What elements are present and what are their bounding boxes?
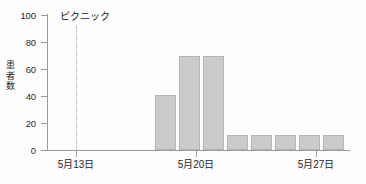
y-tick-label-0: 0 xyxy=(8,146,36,156)
plot-area xyxy=(47,15,350,150)
x-tick-may13 xyxy=(76,151,77,157)
y-tick-label-100: 100 xyxy=(8,11,36,21)
x-axis-line xyxy=(47,150,350,151)
y-tick-0 xyxy=(41,150,47,151)
y-tick-label-20: 20 xyxy=(8,119,36,129)
x-tick-label-may20: 5月20日 xyxy=(161,160,231,170)
y-axis-title-char-3: 数 xyxy=(5,81,16,92)
epidemic-curve-chart: 患 者 数 100 80 60 40 20 0 ピクニック 5月13日 5月20… xyxy=(0,0,366,184)
bar-1 xyxy=(179,56,200,151)
x-tick-label-may13: 5月13日 xyxy=(41,160,111,170)
y-tick-label-60: 60 xyxy=(8,65,36,75)
x-tick-may27 xyxy=(316,151,317,157)
x-tick-may20 xyxy=(196,151,197,157)
y-tick-label-80: 80 xyxy=(8,38,36,48)
bar-4 xyxy=(251,135,272,150)
bar-3 xyxy=(227,135,248,150)
bar-2 xyxy=(203,56,224,151)
x-tick-label-may27: 5月27日 xyxy=(281,160,351,170)
y-tick-label-40: 40 xyxy=(8,92,36,102)
bar-6 xyxy=(299,135,320,150)
bar-0 xyxy=(155,95,176,150)
bar-7 xyxy=(323,135,344,150)
bar-5 xyxy=(275,135,296,150)
